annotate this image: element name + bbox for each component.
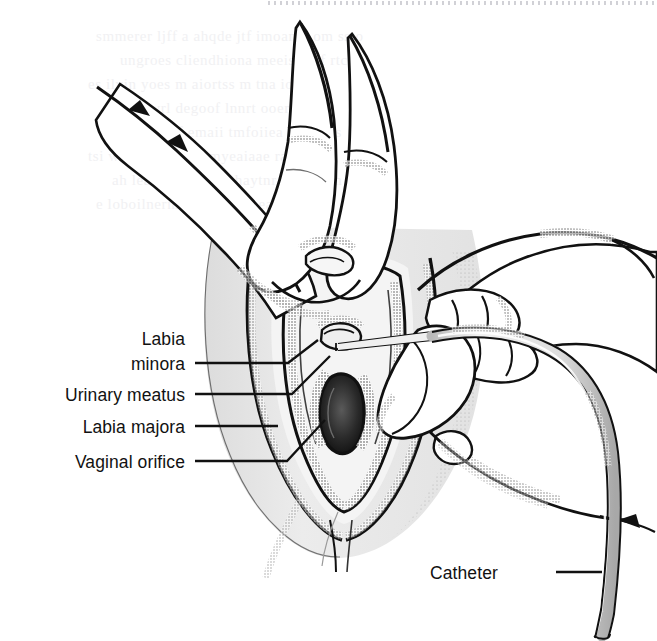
left-hand xyxy=(96,22,397,318)
label-labia-minora-line2: minora xyxy=(131,354,185,374)
vaginal-orifice xyxy=(314,372,371,454)
label-labia-majora: Labia majora xyxy=(83,417,186,437)
label-vaginal-orifice: Vaginal orifice xyxy=(75,452,185,472)
label-urinary-meatus: Urinary meatus xyxy=(65,385,185,405)
catheterization-figure: Labia minora Urinary meatus Labia majora… xyxy=(0,0,657,641)
label-catheter: Catheter xyxy=(430,563,498,583)
label-labia-minora-line1: Labia xyxy=(142,329,185,349)
illustration-svg: Labia minora Urinary meatus Labia majora… xyxy=(0,0,657,641)
